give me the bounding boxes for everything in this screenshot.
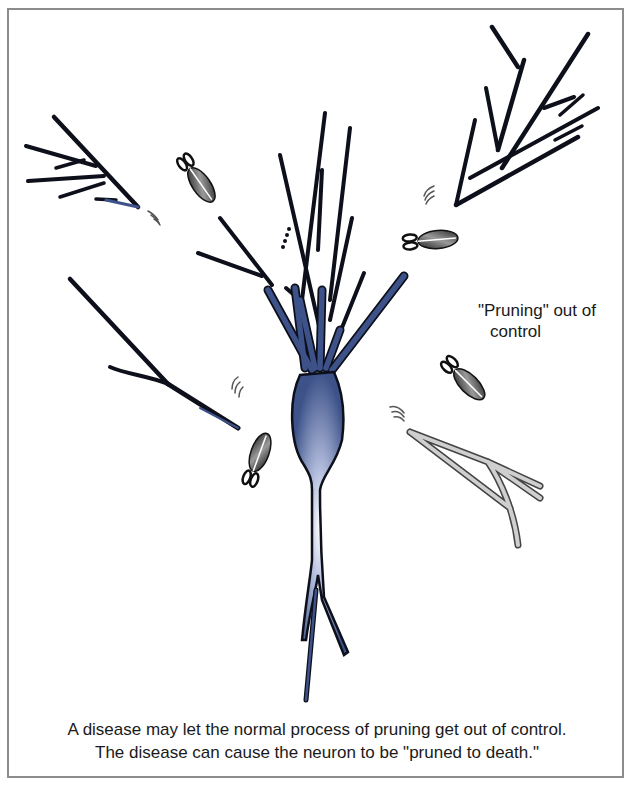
severed-branch-middle-left	[70, 279, 238, 428]
annotation-line-1: "Pruning" out of	[478, 301, 596, 320]
scissors-icon-right	[438, 353, 490, 405]
dead-branch-gray	[410, 432, 540, 545]
motion-marks	[148, 186, 434, 421]
caption-line-2: The disease can cause the neuron to be "…	[10, 741, 624, 764]
scissors-icon-upper-right	[402, 229, 458, 252]
pruning-annotation: "Pruning" out of control	[478, 300, 596, 342]
central-neuron	[198, 113, 404, 700]
severed-branch-top-right	[456, 27, 598, 205]
caption-line-1: A disease may let the normal process of …	[10, 718, 624, 741]
figure-caption: A disease may let the normal process of …	[10, 718, 624, 764]
scissors-icon-top-left	[174, 151, 220, 206]
annotation-line-2: control	[478, 321, 596, 342]
severed-branch-top-left	[26, 117, 138, 207]
scissors-icon-lower-left	[240, 430, 276, 488]
neuron-pruning-illustration	[0, 0, 636, 794]
